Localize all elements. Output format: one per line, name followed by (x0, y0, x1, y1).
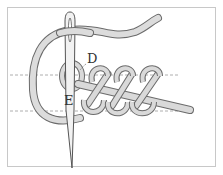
label-d: D (87, 51, 97, 66)
stitch-chain (62, 63, 190, 113)
stitch-diagram: D E (0, 0, 223, 175)
label-e: E (64, 93, 74, 108)
